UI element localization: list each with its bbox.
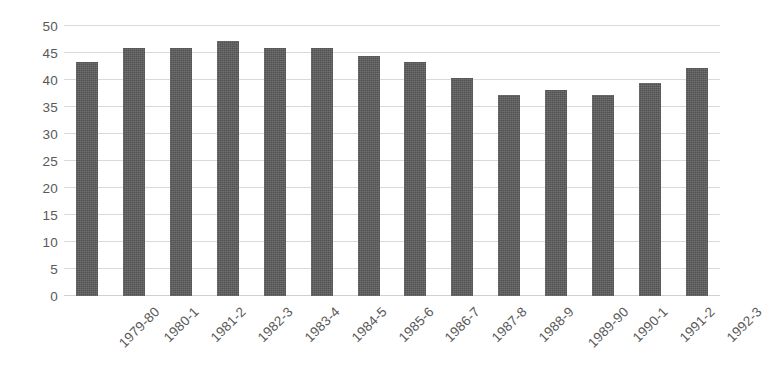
y-tick-label: 45 xyxy=(0,46,58,61)
plot-area xyxy=(64,26,720,296)
x-axis: 1979-801980-11981-21982-31983-41984-5198… xyxy=(64,300,720,376)
bar-slot xyxy=(111,26,158,296)
y-tick-label: 25 xyxy=(0,154,58,169)
y-tick-label: 30 xyxy=(0,127,58,142)
bar[interactable] xyxy=(217,41,239,296)
bar-slot xyxy=(579,26,626,296)
y-tick-label: 50 xyxy=(0,19,58,34)
y-tick-label: 0 xyxy=(0,289,58,304)
x-tick-label: 1990-1 xyxy=(630,304,671,345)
bar[interactable] xyxy=(358,56,380,296)
x-tick-label: 1991-2 xyxy=(676,304,717,345)
x-tick-label: 1992-3 xyxy=(723,304,764,345)
y-tick-label: 10 xyxy=(0,235,58,250)
x-tick-label: 1986-7 xyxy=(442,304,483,345)
bar[interactable] xyxy=(404,62,426,296)
y-axis: 05101520253035404550 xyxy=(0,0,58,376)
bar-slot xyxy=(673,26,720,296)
bar[interactable] xyxy=(264,48,286,296)
x-tick-label: 1985-6 xyxy=(395,304,436,345)
y-tick-label: 20 xyxy=(0,181,58,196)
bar-slot xyxy=(439,26,486,296)
x-tick-label: 1983-4 xyxy=(302,304,343,345)
x-tick-label: 1987-8 xyxy=(489,304,530,345)
bar[interactable] xyxy=(451,78,473,296)
bar[interactable] xyxy=(592,95,614,296)
y-tick-label: 5 xyxy=(0,262,58,277)
bar-slot xyxy=(64,26,111,296)
bar[interactable] xyxy=(76,62,98,296)
bar-slot xyxy=(345,26,392,296)
y-tick-label: 15 xyxy=(0,208,58,223)
bar-slot xyxy=(392,26,439,296)
bar-slot xyxy=(205,26,252,296)
bar-slot xyxy=(626,26,673,296)
bar[interactable] xyxy=(639,83,661,296)
y-tick-label: 40 xyxy=(0,73,58,88)
x-tick-label: 1979-80 xyxy=(116,304,163,351)
bar[interactable] xyxy=(170,48,192,296)
x-tick-label: 1989-90 xyxy=(585,304,632,351)
x-tick-label: 1981-2 xyxy=(208,304,249,345)
bar-slot xyxy=(533,26,580,296)
y-tick-label: 35 xyxy=(0,100,58,115)
bar[interactable] xyxy=(498,95,520,296)
x-tick-label: 1984-5 xyxy=(348,304,389,345)
bar-slot xyxy=(298,26,345,296)
bar[interactable] xyxy=(545,90,567,296)
x-tick-label: 1988-9 xyxy=(536,304,577,345)
bar[interactable] xyxy=(686,68,708,296)
bar[interactable] xyxy=(311,48,333,296)
x-tick-label: 1982-3 xyxy=(255,304,296,345)
bar-slot xyxy=(486,26,533,296)
bar-slot xyxy=(158,26,205,296)
bar[interactable] xyxy=(123,48,145,296)
x-tick-label: 1980-1 xyxy=(161,304,202,345)
bar-slot xyxy=(251,26,298,296)
